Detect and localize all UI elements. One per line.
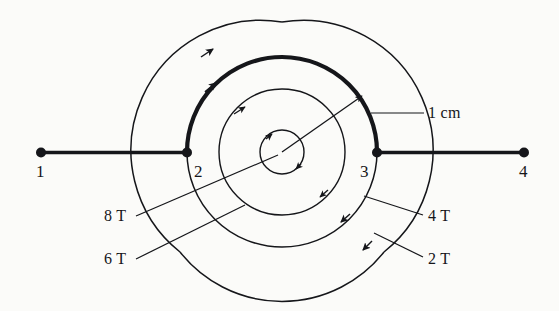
physics-diagram: 1 2 3 4 8 T 6 T 4 T 2 T 1 cm [0, 0, 559, 311]
node-label-2: 2 [194, 163, 203, 180]
node-label-3: 3 [360, 163, 369, 180]
node-label-4: 4 [519, 163, 528, 180]
node-label-1: 1 [36, 163, 45, 180]
leader-4T [364, 196, 423, 215]
horizontal-wire [36, 148, 529, 158]
leader-lines [136, 155, 423, 259]
dimension-label-1cm: 1 cm [428, 105, 461, 121]
leader-8T [136, 155, 278, 216]
field-label-6T: 6 T [104, 251, 126, 267]
field-label-8T: 8 T [104, 208, 126, 224]
node-dot-3 [372, 148, 382, 158]
arrowhead-6T-top [234, 107, 245, 114]
field-label-2T: 2 T [428, 251, 450, 267]
circle-2T [131, 20, 433, 301]
field-label-4T: 4 T [428, 208, 450, 224]
node-dot-1 [36, 148, 46, 158]
arrowhead-4T-bottom [341, 214, 350, 222]
leader-6T [136, 205, 245, 259]
node-dot-4 [519, 148, 529, 158]
arrowhead-2T-top [201, 49, 213, 57]
node-dot-2 [182, 148, 192, 158]
dimension-arrow-1cm [282, 96, 424, 152]
arrowhead-2T-bottom [363, 241, 372, 250]
leader-2T [374, 233, 423, 257]
diagram-canvas [0, 0, 559, 311]
arrowhead-8T-bottom [296, 164, 301, 169]
